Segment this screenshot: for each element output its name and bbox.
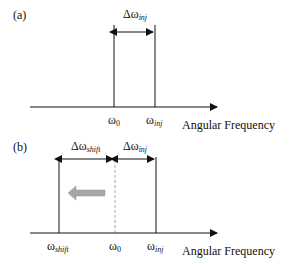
shift-left-arrow-icon — [68, 186, 105, 200]
panel-a: (a) Δωinj ω0 ωinj Angular Frequency — [13, 7, 275, 132]
frequency-diagram: (a) Δωinj ω0 ωinj Angular Frequency (b) … — [0, 0, 290, 264]
tick-omega-inj-a: ωinj — [146, 113, 163, 128]
tick-omega0-b: ω0 — [109, 239, 121, 254]
delta-shift-label: Δωshift — [71, 139, 101, 154]
tick-omega-inj-b: ωinj — [147, 239, 164, 254]
panel-a-label: (a) — [13, 8, 26, 22]
delta-inj-label-a: Δωinj — [123, 7, 148, 22]
tick-omega-shift: ωshift — [47, 239, 69, 254]
panel-b: (b) Δωshift Δωinj ωshift ω0 ωinj Angular… — [13, 139, 275, 258]
delta-inj-label-b: Δωinj — [123, 139, 148, 154]
panel-b-label: (b) — [13, 140, 27, 154]
axis-label-b: Angular Frequency — [182, 244, 275, 258]
axis-label-a: Angular Frequency — [182, 118, 275, 132]
tick-omega0-a: ω0 — [108, 113, 120, 128]
